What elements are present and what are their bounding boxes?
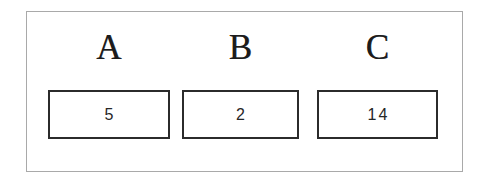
value-box-a[interactable]: 5 <box>48 90 170 139</box>
variable-label-a: A <box>48 28 170 68</box>
variable-cell-b: B 2 <box>182 28 299 158</box>
value-text-a: 5 <box>50 92 168 137</box>
value-text-b: 2 <box>184 92 297 137</box>
value-box-b[interactable]: 2 <box>182 90 299 139</box>
value-text-c: 14 <box>319 92 436 137</box>
variable-cell-c: C 14 <box>317 28 438 158</box>
figure-canvas: A 5 B 2 C 14 <box>0 0 484 182</box>
variable-cell-a: A 5 <box>48 28 170 158</box>
variable-label-c: C <box>317 28 438 68</box>
value-box-c[interactable]: 14 <box>317 90 438 139</box>
cell-group: A 5 B 2 C 14 <box>26 11 463 172</box>
variable-label-b: B <box>182 28 299 68</box>
